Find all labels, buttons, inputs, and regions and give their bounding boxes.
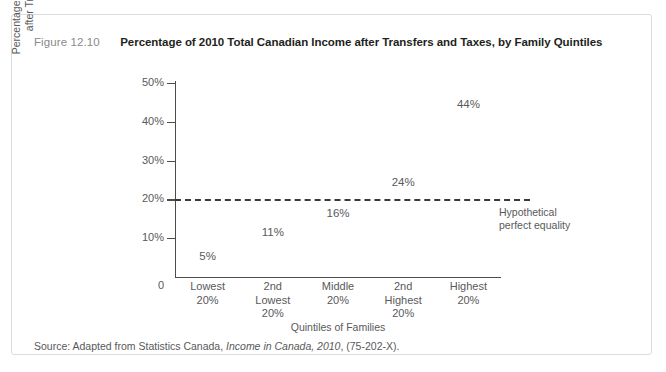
- source-note: Source: Adapted from Statistics Canada, …: [34, 340, 399, 352]
- reference-line-equality: [175, 199, 530, 201]
- y-axis-title-line1: Percentage of Total Income Earned: [10, 0, 22, 54]
- x-axis-category-label-line: Highest: [366, 294, 440, 308]
- y-axis-tick: [167, 122, 175, 123]
- reference-line-annotation: Hypothetical perfect equality: [499, 206, 570, 232]
- reference-line-annotation-line1: Hypothetical: [499, 206, 570, 219]
- x-axis-title: Quintiles of Families: [175, 321, 501, 333]
- x-axis-category-label-line: Lowest: [171, 280, 245, 294]
- data-point-label: 5%: [199, 250, 216, 262]
- data-point-label: 11%: [262, 226, 284, 238]
- x-axis-category-label-line: 20%: [431, 294, 505, 308]
- x-axis-category-label: Highest20%: [431, 280, 505, 307]
- data-point-label: 44%: [457, 98, 480, 110]
- y-axis-tick-label: 20%: [128, 192, 164, 204]
- y-axis-tick-label: 10%: [128, 231, 164, 243]
- y-axis-tick: [167, 83, 175, 84]
- data-point-label: 24%: [392, 176, 415, 188]
- x-axis-category-label-line: 20%: [171, 294, 245, 308]
- data-point-label: 16%: [326, 207, 349, 219]
- reference-line-annotation-line2: perfect equality: [499, 219, 570, 232]
- source-suffix: , (75-202-X).: [340, 340, 399, 352]
- y-axis-tick: [167, 199, 175, 200]
- y-axis-title: Percentage of Total Income Earned after …: [10, 0, 26, 77]
- source-italic: Income in Canada, 2010: [226, 340, 340, 352]
- y-axis-title-line2: after Transfers and Taxes: [23, 0, 36, 77]
- figure-card: Figure 12.10 Percentage of 2010 Total Ca…: [11, 14, 652, 355]
- x-axis-category-label-line: 2nd: [236, 280, 310, 294]
- y-axis-line: [175, 81, 176, 278]
- x-axis-category-label-line: Lowest: [236, 294, 310, 308]
- x-axis-category-label-line: Middle: [301, 280, 375, 294]
- x-axis-line: [175, 277, 501, 278]
- page-title: Percentage of 2010 Total Canadian Income…: [120, 36, 602, 48]
- x-axis-category-label-line: 20%: [366, 307, 440, 321]
- figure-header: Figure 12.10 Percentage of 2010 Total Ca…: [34, 32, 602, 50]
- y-axis-tick: [167, 238, 175, 239]
- x-axis-category-label-line: 20%: [236, 307, 310, 321]
- x-axis-category-label: 2ndHighest20%: [366, 280, 440, 321]
- x-axis-category-label-line: 2nd: [366, 280, 440, 294]
- x-axis-category-label: Lowest20%: [171, 280, 245, 307]
- x-axis-category-label-line: 20%: [301, 294, 375, 308]
- figure-number: Figure 12.10: [34, 36, 100, 48]
- y-axis-tick-label: 50%: [128, 76, 164, 88]
- y-axis-tick-label: 40%: [128, 115, 164, 127]
- y-axis-tick-label: 30%: [128, 154, 164, 166]
- y-axis-tick: [167, 161, 175, 162]
- x-axis-category-label: Middle20%: [301, 280, 375, 307]
- origin-label: 0: [158, 279, 164, 291]
- x-axis-category-label: 2ndLowest20%: [236, 280, 310, 321]
- source-prefix: Source: Adapted from Statistics Canada,: [34, 340, 226, 352]
- x-axis-category-label-line: Highest: [431, 280, 505, 294]
